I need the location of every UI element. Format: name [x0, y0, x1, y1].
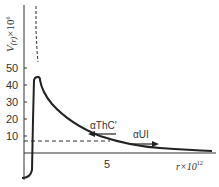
y-tick-30: 30: [6, 96, 18, 108]
x-tick-5: 5: [104, 158, 110, 170]
y-tick-10: 10: [6, 130, 18, 142]
coulomb-dashed-curve: [36, 6, 38, 62]
y-tick-50: 50: [6, 62, 18, 74]
x-axis-label: r×1012: [176, 160, 203, 172]
potential-chart: 50 40 30 20 10 V(r)×106 5 r×1012 αThC′ α…: [0, 0, 219, 187]
y-axis-label: V(r)×106: [4, 17, 18, 52]
annotation-athc: αThC′: [90, 120, 117, 131]
y-tick-20: 20: [6, 113, 18, 125]
y-tick-40: 40: [6, 79, 18, 91]
svg-text:V(r)×106: V(r)×106: [4, 17, 18, 52]
annotation-aui: αUI: [133, 129, 149, 140]
